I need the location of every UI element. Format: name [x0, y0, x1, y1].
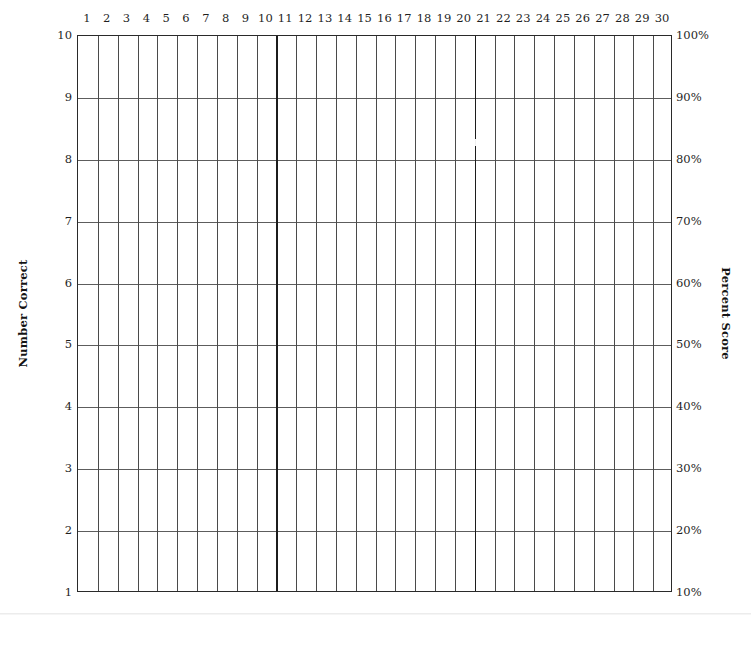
right-axis-tick: 30%	[676, 462, 722, 474]
top-axis-tick: 30	[650, 11, 674, 25]
left-axis-tick: 7	[42, 215, 72, 227]
vertical-gridline	[98, 36, 99, 591]
score-grid-chart: 1234567891011121314151617181920212223242…	[0, 0, 751, 645]
vertical-gridline	[197, 36, 198, 591]
horizontal-gridline	[78, 160, 671, 161]
horizontal-gridline	[78, 345, 671, 346]
vertical-gridline	[296, 36, 297, 591]
vertical-gridline	[415, 36, 416, 591]
left-axis-tick: 8	[42, 153, 72, 165]
vertical-gridline	[554, 36, 555, 591]
right-axis-tick: 10%	[676, 586, 722, 598]
left-axis-ticks: 10987654321	[40, 35, 72, 592]
right-axis-tick: 20%	[676, 524, 722, 536]
vertical-gridline	[376, 36, 377, 591]
right-axis-title: Percent Score	[717, 35, 735, 592]
top-axis-ticks: 1234567891011121314151617181920212223242…	[77, 11, 672, 31]
right-axis-tick: 70%	[676, 215, 722, 227]
vertical-gridline-major	[276, 36, 278, 591]
left-axis-tick: 3	[42, 462, 72, 474]
horizontal-gridline	[78, 284, 671, 285]
right-axis-tick: 80%	[676, 153, 722, 165]
vertical-gridline	[177, 36, 178, 591]
vertical-gridline	[138, 36, 139, 591]
left-axis-tick: 10	[42, 29, 72, 41]
horizontal-gridline	[78, 531, 671, 532]
vertical-gridline	[594, 36, 595, 591]
vertical-gridline	[614, 36, 615, 591]
vertical-gridline	[455, 36, 456, 591]
left-axis-tick: 1	[42, 586, 72, 598]
left-axis-title: Number Correct	[14, 35, 32, 592]
horizontal-gridline	[78, 98, 671, 99]
plot-area	[77, 35, 672, 592]
left-axis-tick: 4	[42, 400, 72, 412]
gridline-scan-artifact	[474, 139, 476, 146]
vertical-gridline	[217, 36, 218, 591]
left-axis-tick: 5	[42, 338, 72, 350]
right-axis-tick: 60%	[676, 277, 722, 289]
vertical-gridline	[157, 36, 158, 591]
vertical-gridline	[653, 36, 654, 591]
horizontal-gridline	[78, 469, 671, 470]
vertical-gridline-major	[475, 36, 477, 591]
left-axis-tick: 9	[42, 91, 72, 103]
vertical-gridline	[633, 36, 634, 591]
right-axis-tick: 50%	[676, 338, 722, 350]
vertical-gridline	[395, 36, 396, 591]
vertical-gridline	[514, 36, 515, 591]
right-axis-tick: 40%	[676, 400, 722, 412]
vertical-gridline	[534, 36, 535, 591]
page-divider-secondary	[0, 614, 751, 615]
right-axis-tick: 90%	[676, 91, 722, 103]
horizontal-gridline	[78, 407, 671, 408]
horizontal-gridline	[78, 222, 671, 223]
left-axis-tick: 6	[42, 277, 72, 289]
vertical-gridline	[574, 36, 575, 591]
vertical-gridline	[237, 36, 238, 591]
left-axis-tick: 2	[42, 524, 72, 536]
vertical-gridline	[316, 36, 317, 591]
vertical-gridline	[356, 36, 357, 591]
vertical-gridline	[495, 36, 496, 591]
vertical-gridline	[336, 36, 337, 591]
right-axis-tick: 100%	[676, 29, 722, 41]
vertical-gridline	[118, 36, 119, 591]
vertical-gridline	[257, 36, 258, 591]
vertical-gridline	[435, 36, 436, 591]
